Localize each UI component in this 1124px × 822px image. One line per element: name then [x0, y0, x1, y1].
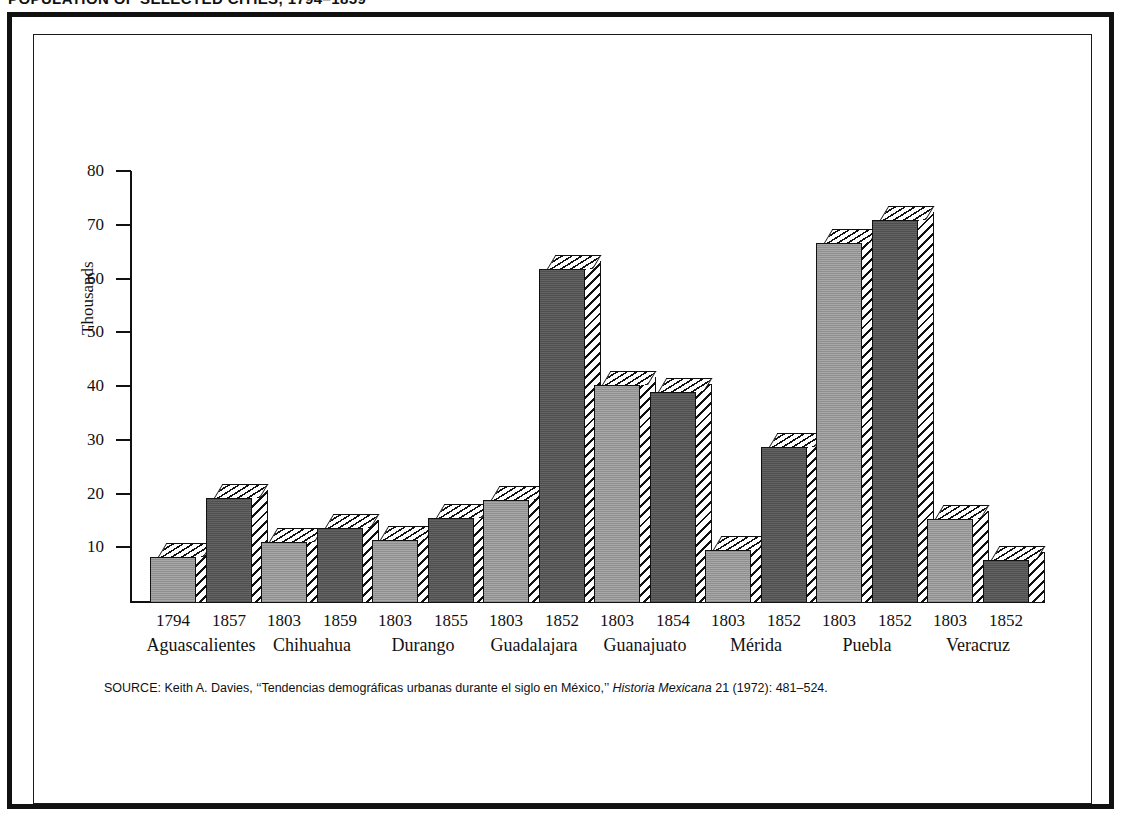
bar-front-face: [261, 542, 307, 603]
bar-top-face: [325, 514, 379, 528]
bar-top-face: [380, 526, 434, 540]
y-tick-label: 20: [64, 485, 104, 502]
source-label: SOURCE:: [104, 681, 161, 695]
y-tick-label: 60: [64, 270, 104, 287]
y-tick-label: 30: [64, 431, 104, 448]
bar-front-face: [483, 500, 529, 603]
bar-front-face: [150, 557, 196, 603]
y-tick-mark: [116, 278, 131, 280]
x-city-label: Veracruz: [878, 635, 1078, 656]
bar-front-face: [206, 498, 252, 603]
bar-front-face: [372, 540, 418, 603]
source-note: SOURCE: Keith A. Davies, ‘‘Tendencias de…: [104, 680, 1034, 697]
y-tick-label: 80: [64, 162, 104, 179]
bar-top-face: [880, 206, 934, 220]
y-tick-label: 70: [64, 216, 104, 233]
bar-top-face: [602, 371, 656, 385]
source-text-after: 21 (1972): 481–524.: [712, 681, 828, 695]
bar-front-face: [594, 385, 640, 603]
x-year-label: 1852: [971, 611, 1041, 631]
y-tick-label: 50: [64, 323, 104, 340]
y-tick-mark: [116, 385, 131, 387]
bar-front-face: [428, 518, 474, 603]
source-text-before: Keith A. Davies, ‘‘Tendencias demográfic…: [161, 681, 612, 695]
bar-front-face: [983, 560, 1029, 603]
bar-top-face: [824, 229, 878, 243]
figure-page: POPULATION OF SELECTED CITIES, 1794–1859…: [0, 0, 1124, 822]
y-tick-mark: [116, 546, 131, 548]
bar-top-face: [158, 543, 212, 557]
y-tick-mark: [116, 439, 131, 441]
y-tick-mark: [116, 224, 131, 226]
source-journal-title: Historia Mexicana: [612, 681, 711, 695]
y-tick-mark: [116, 170, 131, 172]
chart-plot-area: Thousands 1020304050607080 17941857Aguas…: [34, 35, 1093, 805]
bar-top-face: [491, 486, 545, 500]
bar-front-face: [317, 528, 363, 603]
bar-front-face: [650, 392, 696, 603]
y-tick-label: 40: [64, 377, 104, 394]
bar-front-face: [761, 447, 807, 603]
bar-top-face: [214, 484, 268, 498]
bar-top-face: [269, 528, 323, 542]
bar-front-face: [816, 243, 862, 603]
bar-top-face: [547, 255, 601, 269]
y-tick-mark: [116, 493, 131, 495]
bar-front-face: [539, 269, 585, 603]
bar-top-face: [658, 378, 712, 392]
bar-top-face: [713, 536, 767, 550]
bar-front-face: [872, 220, 918, 603]
inner-frame-border: Thousands 1020304050607080 17941857Aguas…: [33, 34, 1092, 804]
running-head: POPULATION OF SELECTED CITIES, 1794–1859: [8, 0, 568, 8]
bar-front-face: [705, 550, 751, 603]
bar-top-face: [935, 505, 989, 519]
bar-series: [132, 171, 1022, 603]
y-tick-mark: [116, 331, 131, 333]
bar-top-face: [991, 546, 1045, 560]
bar-front-face: [927, 519, 973, 603]
y-tick-label: 10: [64, 538, 104, 555]
